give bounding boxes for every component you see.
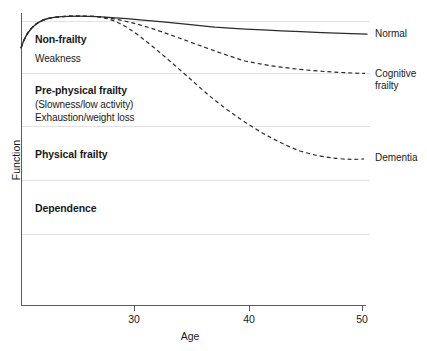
x-tick-label-50: 50 bbox=[356, 313, 368, 325]
series-label-cognitive-frailty-line2: frailty bbox=[375, 80, 399, 91]
y-axis-title: Function bbox=[10, 130, 22, 190]
stage-label-exhaustion-weight-loss: Exhaustion/weight loss bbox=[35, 112, 135, 124]
x-axis-title: Age bbox=[181, 330, 200, 342]
stage-label-dependence: Dependence bbox=[35, 202, 96, 214]
series-label-dementia: Dementia bbox=[375, 152, 417, 164]
stage-label-non-frailty: Non-frailty bbox=[35, 33, 86, 45]
series-label-cognitive-frailty-line1: Cognitive bbox=[375, 68, 416, 79]
x-tick-label-40: 40 bbox=[243, 313, 255, 325]
series-label-normal: Normal bbox=[375, 28, 407, 40]
series-label-cognitive-frailty: Cognitive frailty bbox=[375, 68, 416, 92]
x-tick-label-30: 30 bbox=[128, 313, 140, 325]
stage-label-slowness-low-activity: (Slowness/low activity) bbox=[35, 99, 133, 111]
stage-label-physical-frailty: Physical frailty bbox=[35, 148, 108, 160]
stage-label-weakness: Weakness bbox=[35, 53, 81, 65]
stage-label-pre-physical-frailty: Pre-physical frailty bbox=[35, 84, 127, 96]
frailty-trajectory-chart: Non-frailty Weakness Pre-physical frailt… bbox=[0, 0, 427, 351]
